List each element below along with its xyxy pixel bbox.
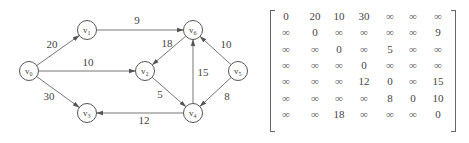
edge-weight-label: 18 (162, 37, 174, 49)
matrix-cell: ∞ (274, 73, 298, 89)
edge-v5-v4: 8 (200, 77, 231, 106)
edge-weight-label: 9 (134, 14, 140, 26)
matrix-cell: ∞ (352, 90, 376, 106)
edge-weight-label: 12 (139, 114, 150, 126)
node-v4: v4 (184, 104, 203, 123)
matrix-cell: 0 (378, 73, 402, 89)
matrix-cell: 10 (426, 90, 450, 106)
matrix-cell: 9 (426, 24, 450, 40)
edge-weight-label: 5 (157, 88, 163, 100)
matrix-cell: ∞ (303, 73, 327, 89)
matrix-row: ∞∞18∞∞∞0 (268, 106, 458, 122)
adjacency-matrix: 0201030∞∞∞∞0∞∞∞∞9∞∞0∞5∞∞∞∞∞0∞∞∞∞∞∞120∞15… (268, 6, 458, 136)
matrix-cell: ∞ (274, 24, 298, 40)
matrix-cell: ∞ (327, 24, 351, 40)
matrix-cell: 5 (378, 41, 402, 57)
matrix-cell: 8 (378, 90, 402, 106)
matrix-cell: 18 (327, 106, 351, 122)
matrix-row: 0201030∞∞∞ (268, 8, 458, 24)
matrix-cell: ∞ (378, 106, 402, 122)
matrix-cell: 0 (303, 24, 327, 40)
matrix-cell: ∞ (401, 106, 425, 122)
matrix-cell: ∞ (352, 106, 376, 122)
edge-weight-label: 10 (83, 56, 95, 68)
edge-v0-v2: 10 (39, 56, 136, 71)
matrix-cell: ∞ (352, 24, 376, 40)
node-v5: v5 (229, 62, 248, 81)
matrix-cell: ∞ (303, 90, 327, 106)
matrix-cell: 10 (327, 8, 351, 24)
edge-v2-v4: 5 (152, 77, 186, 106)
edge-v6-v2: 18 (152, 36, 186, 65)
matrix-cell: 0 (327, 41, 351, 57)
matrix-cell: ∞ (426, 41, 450, 57)
matrix-cell: ∞ (426, 57, 450, 73)
matrix-row: ∞∞∞120∞15 (268, 73, 458, 89)
node-v1: v1 (78, 21, 97, 40)
matrix-cell: ∞ (352, 41, 376, 57)
matrix-row: ∞∞∞0∞∞∞ (268, 57, 458, 73)
edge-weight-label: 15 (198, 66, 210, 78)
matrix-cell: ∞ (426, 8, 450, 24)
matrix-cell: ∞ (401, 57, 425, 73)
edge-v0-v1: 20 (37, 35, 79, 65)
matrix-cell: ∞ (327, 90, 351, 106)
matrix-cell: 20 (303, 8, 327, 24)
node-v6: v6 (184, 21, 203, 40)
node-v0: v0 (20, 62, 39, 81)
matrix-row: ∞∞∞∞8010 (268, 90, 458, 106)
matrix-cell: ∞ (274, 106, 298, 122)
matrix-cell: ∞ (274, 41, 298, 57)
matrix-cell: 15 (426, 73, 450, 89)
matrix-cell: 0 (401, 90, 425, 106)
matrix-cell: ∞ (401, 24, 425, 40)
matrix-cell: 30 (352, 8, 376, 24)
edge-v0-v3: 30 (37, 77, 80, 108)
nodes-layer: v0v1v2v3v4v5v6 (20, 21, 248, 123)
matrix-cell: ∞ (401, 41, 425, 57)
directed-weighted-graph: 20103091851512108 v0v1v2v3v4v5v6 (0, 0, 260, 143)
edge-v4-v6: 15 (193, 40, 209, 104)
matrix-cell: ∞ (274, 57, 298, 73)
edge-v1-v6: 9 (97, 14, 184, 30)
edge-weight-label: 20 (47, 38, 59, 50)
edge-v5-v6: 10 (200, 36, 232, 64)
node-v3: v3 (78, 104, 97, 123)
matrix-row: ∞∞0∞5∞∞ (268, 41, 458, 57)
matrix-cell: ∞ (378, 57, 402, 73)
matrix-cell: ∞ (303, 41, 327, 57)
matrix-cell: 12 (352, 73, 376, 89)
matrix-cell: ∞ (378, 8, 402, 24)
edge-weight-label: 10 (221, 38, 233, 50)
matrix-cell: ∞ (401, 8, 425, 24)
matrix-cell: ∞ (378, 24, 402, 40)
matrix-cell: 0 (352, 57, 376, 73)
matrix-cell: ∞ (327, 73, 351, 89)
matrix-cell: ∞ (303, 57, 327, 73)
matrix-cell: ∞ (274, 90, 298, 106)
matrix-row: ∞0∞∞∞∞9 (268, 24, 458, 40)
edge-weight-label: 8 (224, 90, 230, 102)
matrix-cell: ∞ (303, 106, 327, 122)
matrix-cell: 0 (426, 106, 450, 122)
edge-arrow (37, 35, 79, 65)
matrix-cell: 0 (274, 8, 298, 24)
edge-v4-v3: 12 (97, 113, 184, 126)
matrix-cell: ∞ (401, 73, 425, 89)
node-v2: v2 (136, 62, 155, 81)
edge-weight-label: 30 (44, 90, 56, 102)
matrix-cell: ∞ (327, 57, 351, 73)
